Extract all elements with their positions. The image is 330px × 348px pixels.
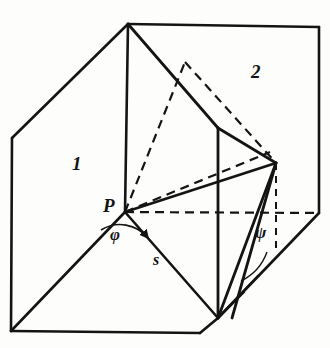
fan-line-b <box>218 276 258 318</box>
region-label-2: 2 <box>251 62 261 81</box>
hidden-construction-lines <box>125 62 319 213</box>
figure-canvas: 1 2 P φ ψ s <box>0 0 330 348</box>
dashed-horizontal-from-p <box>125 212 319 213</box>
dashed-inner-top-to-right <box>185 62 276 163</box>
cut-edge-top <box>128 24 218 128</box>
fan-lines-bottom <box>218 276 258 318</box>
edge-front-vertical-upper <box>125 24 128 212</box>
dashed-p-to-cut-right <box>125 152 270 212</box>
angle-label-psi: ψ <box>255 224 266 241</box>
region-label-1: 1 <box>72 154 82 173</box>
edge-front-right-diagonal <box>125 212 218 318</box>
angle-label-phi: φ <box>110 226 120 243</box>
edge-bottom <box>11 331 200 333</box>
edge-top-back <box>128 24 319 27</box>
edge-front-left-diagonal <box>11 212 125 331</box>
segment-label-s: s <box>153 252 159 268</box>
geometry-drawing <box>0 0 330 348</box>
edge-left-vertical <box>11 138 12 331</box>
point-label-p: P <box>103 196 115 215</box>
dashed-p-to-top-inner <box>125 62 185 212</box>
cut-edge-upper-right <box>218 128 276 163</box>
cut-edge-lower-right <box>218 163 276 318</box>
edge-top-left <box>12 24 128 138</box>
edge-bottom-right <box>200 318 218 333</box>
cut-edge-from-p <box>125 163 276 212</box>
